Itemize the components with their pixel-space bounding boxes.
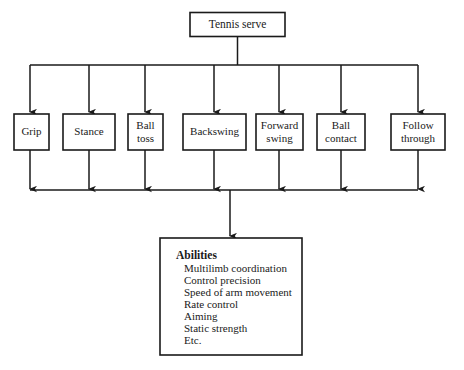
node-follow-through: Follow through [391, 114, 445, 150]
flow-chart-diagram: Tennis serve Grip Stance [0, 0, 464, 370]
node-forward-swing-label-line1: Forward [261, 119, 299, 131]
abilities-list-item: Control precision [184, 274, 261, 286]
node-follow-through-label-line2: through [401, 132, 436, 144]
node-stance-label-line1: Stance [74, 125, 103, 137]
abilities-title: Abilities [176, 249, 217, 261]
node-backswing: Backswing [183, 114, 246, 150]
node-ball-toss: Ball toss [128, 114, 163, 150]
lower-bus-feed-arrows [30, 150, 418, 189]
node-abilities: Abilities Multilimb coordination Control… [160, 238, 302, 355]
node-tennis-serve: Tennis serve [190, 13, 285, 37]
node-forward-swing-label-line2: swing [266, 132, 293, 144]
abilities-list-item: Speed of arm movement [184, 286, 292, 298]
abilities-list-item: Static strength [184, 322, 248, 334]
node-backswing-label-line1: Backswing [190, 125, 239, 137]
node-tennis-serve-label: Tennis serve [209, 18, 267, 30]
node-grip: Grip [14, 114, 49, 150]
abilities-list-item: Multilimb coordination [184, 262, 287, 274]
diagram-canvas: Tennis serve Grip Stance [0, 0, 464, 370]
node-stance: Stance [63, 114, 115, 150]
abilities-list-item: Rate control [184, 298, 238, 310]
upper-bus-drop-arrows [30, 65, 418, 112]
abilities-list-item: Aiming [184, 310, 218, 322]
node-ball-contact-label-line1: Ball [332, 119, 350, 131]
node-grip-label-line1: Grip [21, 125, 42, 137]
node-forward-swing: Forward swing [256, 114, 303, 150]
abilities-list-item: Etc. [184, 334, 202, 346]
node-ball-toss-label-line2: toss [137, 132, 154, 144]
node-ball-contact: Ball contact [317, 114, 365, 150]
node-ball-toss-label-line1: Ball [136, 119, 154, 131]
node-follow-through-label-line1: Follow [402, 119, 433, 131]
node-ball-contact-label-line2: contact [325, 132, 357, 144]
